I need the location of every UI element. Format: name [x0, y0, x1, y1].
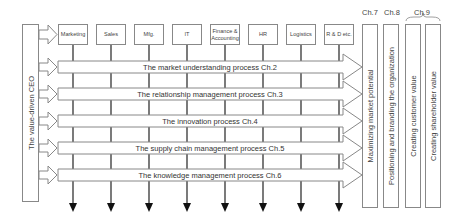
process-label-market: The market understanding process Ch.2 [143, 63, 277, 72]
outcome-box-shareholder-value: Creating shareholder value [425, 24, 441, 208]
chapter-label-8: Ch.8 [384, 8, 400, 17]
outcome-label: Creating shareholder value [429, 71, 438, 161]
chapter-label-9: Ch.9 [414, 8, 430, 17]
function-label: Mfg. [144, 31, 155, 38]
function-logistics: Logistics [286, 24, 316, 45]
function-sales: Sales [96, 24, 126, 45]
outcome-label: Creating customer value [409, 75, 418, 156]
ceo-box: The value-driven CEO [22, 24, 39, 202]
function-it: IT [172, 24, 202, 45]
function-label: R & D etc. [326, 31, 352, 38]
process-label-knowledge: The knowledge management process Ch.6 [139, 171, 282, 180]
outcome-box-market-potential: Maximizing market potential [362, 24, 378, 208]
outcome-label: Positioning and branding the organizatio… [387, 47, 396, 185]
function-mfg: Mfg. [134, 24, 164, 45]
chapter-label-7: Ch.7 [362, 8, 378, 17]
process-label-relationship: The relationship management process Ch.3 [137, 90, 283, 99]
function-marketing: Marketing [58, 24, 88, 45]
outcome-box-positioning: Positioning and branding the organizatio… [383, 24, 399, 208]
down-arrow-icons [69, 203, 343, 212]
function-label: Finance & Accounting [211, 28, 239, 41]
function-hr: HR [248, 24, 278, 45]
outcome-label: Maximizing market potential [366, 70, 375, 163]
function-label: Logistics [290, 31, 312, 38]
function-label: Sales [104, 31, 118, 38]
process-label-innovation: The innovation process Ch.4 [162, 117, 257, 126]
function-finance: Finance & Accounting [210, 24, 240, 45]
function-rnd: R & D etc. [324, 24, 354, 45]
outcome-box-customer-value: Creating customer value [405, 24, 421, 208]
function-label: HR [259, 31, 267, 38]
function-label: Marketing [61, 31, 86, 38]
ceo-label: The value-driven CEO [26, 76, 35, 150]
input-arrow-icons [39, 25, 57, 184]
function-label: IT [185, 31, 190, 38]
process-label-supply-chain: The supply chain management process Ch.5 [136, 144, 285, 153]
